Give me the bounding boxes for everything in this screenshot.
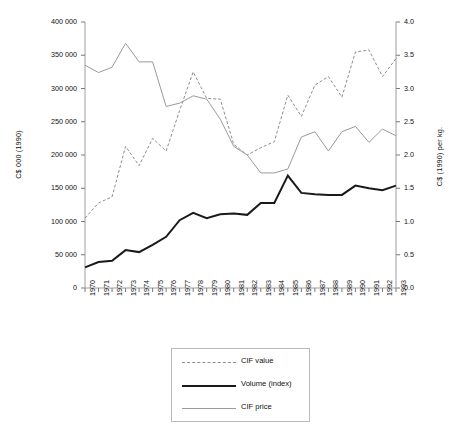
y-axis-left-title: C$ 000 (1990) [14, 115, 23, 195]
x-axis-tick-label: 1988 [331, 280, 340, 296]
y-axis-right-title: C$ (1990) per kg. [435, 112, 444, 202]
y-axis-left-tick-label: 150 000 [31, 183, 77, 192]
x-axis-tick-label: 1990 [358, 280, 367, 296]
y-axis-right-tick-label: 0.5 [404, 250, 434, 259]
x-axis-tick-label: 1976 [169, 280, 178, 296]
x-axis-tick-label: 1980 [223, 280, 232, 296]
y-axis-left-tick-label: 50 000 [31, 250, 77, 259]
y-axis-right-tick-label: 0.0 [404, 283, 434, 292]
legend-item-volume-index: Volume (index) [172, 374, 309, 398]
y-axis-right-tick-label: 2.5 [404, 117, 434, 126]
legend-swatch-thick-solid-icon [182, 385, 236, 387]
x-axis-tick-label: 1982 [250, 280, 259, 296]
series-line-volume-index [85, 176, 396, 268]
y-axis-right-tick-label: 3.5 [404, 50, 434, 59]
y-axis-left-tick-label: 300 000 [31, 84, 77, 93]
legend-label-cif-price: CIF price [241, 402, 272, 411]
y-axis-right-tick-label: 3.0 [404, 84, 434, 93]
x-axis-tick-label: 1993 [399, 280, 408, 296]
y-axis-right-tick-label: 4.0 [404, 17, 434, 26]
legend-swatch-dashed-icon [182, 362, 236, 363]
legend-item-cif-price: CIF price [172, 397, 309, 421]
chart-container: C$ 000 (1990) C$ (1990) per kg. CIF valu… [0, 0, 452, 434]
y-axis-left-tick-label: 200 000 [31, 150, 77, 159]
x-axis-tick-label: 1981 [237, 280, 246, 296]
series-line-cif-price [85, 43, 396, 173]
x-axis-tick-label: 1983 [264, 280, 273, 296]
x-axis-tick-label: 1985 [291, 280, 300, 296]
x-axis-tick-label: 1989 [345, 280, 354, 296]
x-axis-tick-label: 1978 [196, 280, 205, 296]
x-axis-tick-label: 1979 [210, 280, 219, 296]
x-axis-tick-label: 1977 [183, 280, 192, 296]
x-axis-tick-label: 1992 [385, 280, 394, 296]
chart-legend: CIF value Volume (index) CIF price [171, 348, 310, 422]
x-axis-tick-label: 1971 [102, 280, 111, 296]
y-axis-left-tick-label: 250 000 [31, 117, 77, 126]
x-axis-tick-label: 1970 [88, 280, 97, 296]
x-axis-tick-label: 1972 [115, 280, 124, 296]
x-axis-tick-label: 1975 [156, 280, 165, 296]
y-axis-right-tick-label: 1.0 [404, 217, 434, 226]
x-axis-tick-label: 1973 [129, 280, 138, 296]
legend-label-volume-index: Volume (index) [241, 379, 292, 388]
y-axis-left-tick-label: 0 [31, 283, 77, 292]
x-axis-tick-label: 1984 [277, 280, 286, 296]
x-axis-tick-label: 1986 [304, 280, 313, 296]
x-axis-tick-label: 1991 [372, 280, 381, 296]
legend-item-cif-value: CIF value [172, 351, 309, 375]
y-axis-right-tick-label: 2.0 [404, 150, 434, 159]
y-axis-right-tick-label: 1.5 [404, 183, 434, 192]
x-axis-tick-label: 1987 [318, 280, 327, 296]
x-axis-tick-label: 1974 [142, 280, 151, 296]
y-axis-left-tick-label: 100 000 [31, 217, 77, 226]
legend-swatch-thin-solid-icon [182, 408, 236, 409]
y-axis-left-tick-label: 350 000 [31, 50, 77, 59]
y-axis-left-tick-label: 400 000 [31, 17, 77, 26]
legend-label-cif-value: CIF value [241, 356, 274, 365]
series-line-cif-value [85, 50, 396, 218]
